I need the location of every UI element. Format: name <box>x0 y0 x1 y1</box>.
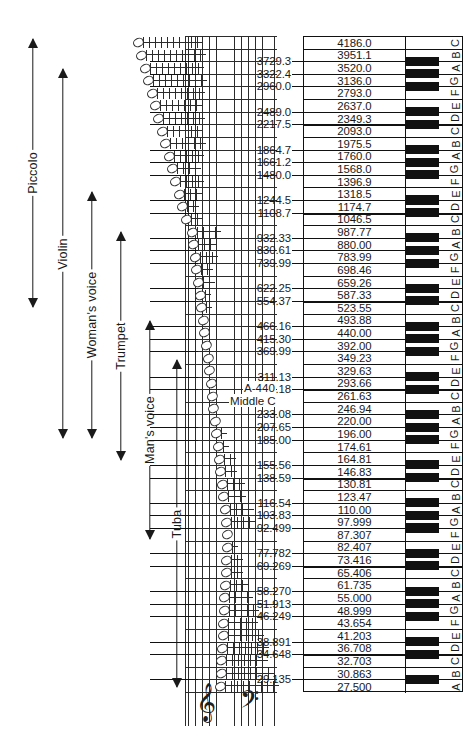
black-key[interactable] <box>406 246 439 255</box>
white-key-label: A <box>449 506 461 513</box>
white-key-label: C <box>449 215 461 223</box>
white-key-label: C <box>449 127 461 135</box>
white-key-frequency: 1318.5 <box>304 188 406 200</box>
black-key[interactable] <box>406 145 439 154</box>
black-key[interactable] <box>406 523 439 532</box>
black-key[interactable] <box>406 498 439 507</box>
white-key-label: D <box>449 203 461 211</box>
white-key-label: D <box>449 644 461 652</box>
black-key[interactable] <box>406 549 439 558</box>
white-key-label: G <box>449 253 461 262</box>
white-key-frequency: 65.406 <box>304 567 406 579</box>
black-key-frequency: 3729.3 <box>257 55 291 67</box>
black-key[interactable] <box>406 460 439 469</box>
white-key-label: F <box>450 620 462 627</box>
black-key-frequency-label: 2960.0 <box>150 80 303 92</box>
black-key[interactable] <box>406 284 439 293</box>
black-key[interactable] <box>406 322 439 331</box>
black-key-frequency: 1244.5 <box>257 194 291 206</box>
black-key[interactable] <box>406 561 439 570</box>
leader-line <box>292 679 303 680</box>
black-key[interactable] <box>406 423 439 432</box>
white-key-label: C <box>449 480 461 488</box>
black-key-frequency-label: 51.913 <box>150 598 303 610</box>
black-key[interactable] <box>406 259 439 268</box>
black-key-frequency: 739.99 <box>257 257 291 269</box>
black-key-frequency: 830.61 <box>257 244 291 256</box>
white-key-label: B <box>449 228 461 235</box>
black-key-frequency: 155.56 <box>257 459 291 471</box>
black-key[interactable] <box>406 385 439 394</box>
black-key[interactable] <box>406 599 439 608</box>
black-key[interactable] <box>406 69 439 78</box>
white-key-frequency: 174.61 <box>304 441 406 453</box>
black-key-frequency: 116.54 <box>258 497 291 509</box>
black-key[interactable] <box>406 57 439 66</box>
black-key[interactable] <box>406 372 439 381</box>
black-key[interactable] <box>406 195 439 204</box>
black-key[interactable] <box>406 334 439 343</box>
white-key-frequency: 123.47 <box>304 491 406 503</box>
white-key-label: G <box>449 518 461 527</box>
black-key[interactable] <box>406 675 439 684</box>
leader-line-left <box>150 591 198 592</box>
white-key-frequency: 349.23 <box>304 352 406 364</box>
leader-line-left <box>150 339 198 340</box>
black-key[interactable] <box>406 637 439 646</box>
white-key-frequency: 392.00 <box>304 340 406 352</box>
white-key-frequency: 2637.0 <box>304 100 406 112</box>
leader-line <box>292 515 303 516</box>
black-key[interactable] <box>406 511 439 520</box>
white-key-label: A <box>449 418 461 425</box>
black-key-frequency-label: 69.269 <box>150 560 303 572</box>
arrow-head-up <box>172 359 182 369</box>
leader-line <box>292 238 303 239</box>
white-key-frequency: 698.46 <box>304 264 406 276</box>
black-key-frequency-label: 116.54 <box>150 497 303 509</box>
white-key-frequency: 2349.3 <box>304 113 406 125</box>
leader-line <box>292 326 303 327</box>
black-key-frequency-label: 77.782 <box>150 547 303 559</box>
leader-line <box>292 124 303 125</box>
black-key-frequency-label: 34.648 <box>150 648 303 660</box>
black-key[interactable] <box>406 473 439 482</box>
black-key[interactable] <box>406 296 439 305</box>
white-key-frequency: 2093.0 <box>304 125 406 137</box>
black-key-frequency-label: 1864.7 <box>150 144 303 156</box>
white-key-label: F <box>450 443 462 450</box>
white-key-label: A <box>449 683 461 690</box>
leader-line-left <box>150 86 198 87</box>
black-key[interactable] <box>406 208 439 217</box>
black-key-frequency: 3322.4 <box>257 68 291 80</box>
black-key[interactable] <box>406 587 439 596</box>
black-key-frequency: 138.59 <box>257 472 291 484</box>
black-key[interactable] <box>406 170 439 179</box>
white-key-label: F <box>450 355 462 362</box>
table-row: 4186.0C <box>304 37 462 50</box>
black-key[interactable] <box>406 120 439 129</box>
black-key[interactable] <box>406 650 439 659</box>
black-key[interactable] <box>406 82 439 91</box>
black-key-frequency: 233.08 <box>257 408 291 420</box>
leader-line <box>292 61 303 62</box>
white-key-label: F <box>450 178 462 185</box>
a440-annotation: A-440 <box>243 381 276 394</box>
black-key-frequency: 185.00 <box>257 434 291 446</box>
black-key[interactable] <box>406 347 439 356</box>
black-key-frequency: 622.25 <box>257 282 291 294</box>
ledger-lines <box>143 37 203 48</box>
black-key[interactable] <box>406 612 439 621</box>
black-key[interactable] <box>406 233 439 242</box>
white-key-frequency: 493.88 <box>304 315 406 327</box>
leader-line-left <box>150 566 198 567</box>
black-key-frequency-label: 1108.7 <box>150 207 303 219</box>
white-key-label: B <box>449 52 461 59</box>
white-key-frequency: 130.81 <box>304 479 406 491</box>
black-key[interactable] <box>406 107 439 116</box>
white-key[interactable]: C <box>406 37 462 49</box>
white-key-frequency: 41.203 <box>304 630 406 642</box>
black-key[interactable] <box>406 435 439 444</box>
black-key[interactable] <box>406 158 439 167</box>
black-key[interactable] <box>406 410 439 419</box>
frequency-table: 4186.0C3951.1B3520.0A3136.0G2793.0F2637.… <box>303 36 463 692</box>
